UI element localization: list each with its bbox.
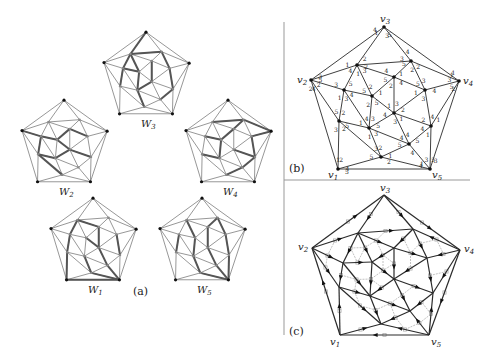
edge [104, 32, 146, 62]
vertex-dot [90, 156, 92, 158]
vertex-label-v4: v4 [464, 243, 474, 256]
vertex-dot [69, 128, 71, 130]
edge [212, 100, 228, 122]
vertex-dot [85, 237, 87, 239]
vertex-dot [241, 166, 243, 168]
vertex-dot [62, 99, 65, 102]
edge-label: 1 [338, 94, 342, 101]
vertex-dot [342, 88, 346, 92]
edge [51, 229, 67, 280]
vertex-dot [211, 121, 213, 123]
vertex-dot [106, 130, 109, 133]
edge [99, 227, 117, 234]
vertex-dot [207, 246, 209, 248]
oriented-edge [358, 195, 384, 233]
vertex-dot [215, 264, 217, 266]
edge [152, 68, 170, 81]
vertex-dot [171, 112, 174, 115]
edge-label: 4 [431, 113, 435, 120]
highlight-edge [130, 32, 146, 54]
edge [254, 157, 255, 182]
edge-label: 4 [399, 79, 403, 86]
arrow-icon [358, 260, 363, 264]
vertex-dot [115, 233, 117, 235]
edge-label: 1 [414, 89, 418, 96]
edge [120, 86, 121, 114]
edge-label: 3 [374, 130, 378, 137]
edge [62, 175, 90, 182]
highlight-edge [22, 131, 41, 137]
vertex-dot [119, 254, 121, 256]
vertex-dot [250, 135, 252, 137]
wheel-graph-W3: W3 [102, 31, 190, 131]
panel-c-oriented-triangulation: v1v2v3v4v5 [298, 182, 474, 349]
wheel-label-W3: W3 [141, 118, 156, 131]
edge-label: 5 [416, 80, 420, 87]
edge-label: 2 [366, 101, 370, 108]
highlight-edge [228, 255, 229, 280]
vertex-dot [185, 219, 187, 221]
vertex-dot [77, 166, 79, 168]
vertex-dot [178, 233, 180, 235]
vertex-dot [174, 278, 177, 281]
panel-c-caption: (c) [289, 325, 304, 338]
edge-label: 3 [334, 81, 338, 88]
edge [226, 175, 254, 182]
edge [186, 131, 202, 182]
edge-label: 3 [422, 77, 426, 84]
vertex-label-v2: v2 [297, 74, 308, 87]
vertex-dot [336, 167, 340, 171]
vertex-dot [90, 272, 92, 274]
vertex-dot [226, 99, 229, 102]
vertex-dot [227, 278, 230, 281]
edge-label: 5 [402, 60, 406, 67]
vertex-dot [106, 264, 108, 266]
vertex-dot [37, 153, 39, 155]
highlight-edge [117, 234, 120, 255]
highlight-edge [57, 140, 70, 150]
vertex-dot [244, 228, 247, 231]
edge [228, 100, 271, 131]
edge [221, 140, 234, 150]
edge-label: 4 [346, 165, 350, 172]
edge [254, 131, 271, 182]
vertex-dot [242, 118, 244, 120]
highlight-edge [176, 234, 179, 252]
edge-label: 4 [349, 67, 353, 74]
edge [384, 27, 459, 81]
edge [38, 154, 39, 182]
edge-label: 4 [411, 149, 415, 156]
vertex-dot [194, 237, 196, 239]
vertex-dot [220, 139, 222, 141]
vertex-dot [337, 119, 341, 123]
wheel-label-W4: W4 [223, 186, 238, 199]
edge-label: 5 [334, 108, 338, 115]
highlight-edge [226, 234, 229, 255]
highlight-edge [41, 136, 57, 139]
oriented-edge [312, 248, 339, 287]
edge [311, 27, 384, 80]
edge-label: 2 [363, 55, 367, 62]
highlight-edge [160, 89, 173, 99]
vertex-dot [78, 118, 80, 120]
vertex-dot [224, 233, 226, 235]
vertex-dot [200, 180, 203, 183]
vertex-dot [40, 135, 42, 137]
arrow-icon [440, 298, 444, 303]
vertex-label-v2: v2 [298, 241, 309, 254]
vertex-dot [184, 129, 187, 132]
edge [228, 229, 245, 280]
oriented-edge [427, 258, 433, 293]
edge [195, 227, 208, 238]
edge [186, 218, 217, 220]
vertex-label-v3: v3 [380, 182, 391, 195]
vertex-dot [69, 233, 71, 235]
vertex-dot [158, 227, 161, 230]
arrow-icon [337, 238, 342, 242]
edge [70, 136, 88, 149]
edge-label: 4 [406, 131, 410, 138]
highlight-edge [193, 238, 195, 256]
vertex-dot [98, 226, 100, 228]
vertex-dot [254, 156, 256, 158]
oriented-edge [343, 262, 372, 263]
